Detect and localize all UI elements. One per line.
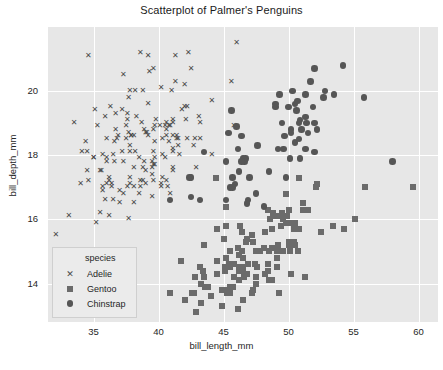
data-point-adelie: ✕ xyxy=(183,103,191,111)
data-point-adelie: ✕ xyxy=(119,190,127,198)
data-point-gentoo xyxy=(167,290,173,296)
data-point-gentoo xyxy=(275,242,281,248)
y-tick-label: 20 xyxy=(8,85,38,96)
data-point-gentoo xyxy=(291,226,297,232)
data-point-adelie: ✕ xyxy=(110,138,118,146)
data-point-gentoo xyxy=(296,226,302,232)
data-point-adelie: ✕ xyxy=(77,180,85,188)
data-point-chinstrap xyxy=(283,174,290,181)
legend-marker-x-icon: ✕ xyxy=(61,269,79,279)
data-point-chinstrap xyxy=(288,130,295,137)
data-point-gentoo xyxy=(227,264,233,270)
data-point-adelie: ✕ xyxy=(164,183,172,191)
data-point-gentoo xyxy=(223,204,229,210)
data-point-gentoo xyxy=(236,277,242,283)
data-point-gentoo xyxy=(318,229,324,235)
x-tick-label: 35 xyxy=(74,326,114,337)
data-point-gentoo xyxy=(213,175,219,181)
data-point-gentoo xyxy=(284,213,290,219)
data-point-adelie: ✕ xyxy=(105,212,113,220)
data-point-gentoo xyxy=(244,271,250,277)
data-point-gentoo xyxy=(352,216,358,222)
data-point-chinstrap xyxy=(236,168,243,175)
data-point-chinstrap xyxy=(389,158,396,165)
data-point-adelie: ✕ xyxy=(122,135,130,143)
data-point-adelie: ✕ xyxy=(118,148,126,156)
data-point-gentoo xyxy=(410,184,416,190)
data-point-gentoo xyxy=(240,297,246,303)
legend-item-adelie[interactable]: ✕Adelie xyxy=(61,266,126,281)
legend-item-chinstrap[interactable]: Chinstrap xyxy=(61,296,126,311)
data-point-chinstrap xyxy=(314,126,321,133)
data-point-chinstrap xyxy=(293,107,300,114)
data-point-gentoo xyxy=(302,274,308,280)
data-point-adelie: ✕ xyxy=(101,196,109,204)
data-point-adelie: ✕ xyxy=(233,39,241,47)
x-tick-label: 40 xyxy=(139,326,179,337)
data-point-chinstrap xyxy=(296,136,303,143)
y-tick-label: 14 xyxy=(8,278,38,289)
data-point-adelie: ✕ xyxy=(144,52,152,60)
x-tick-label: 55 xyxy=(334,326,374,337)
data-point-gentoo xyxy=(192,274,198,280)
data-point-gentoo xyxy=(253,274,259,280)
data-point-chinstrap xyxy=(305,130,312,137)
data-point-chinstrap xyxy=(188,174,195,181)
data-point-gentoo xyxy=(270,210,276,216)
legend-marker-circle-icon xyxy=(61,299,79,309)
data-point-chinstrap xyxy=(276,91,283,98)
data-point-gentoo xyxy=(227,248,233,254)
data-point-gentoo xyxy=(201,274,207,280)
data-point-gentoo xyxy=(236,268,242,274)
data-point-gentoo xyxy=(274,248,280,254)
data-point-chinstrap xyxy=(322,88,329,95)
data-point-gentoo xyxy=(253,281,259,287)
data-point-adelie: ✕ xyxy=(125,94,133,102)
data-point-chinstrap xyxy=(281,133,288,140)
data-point-gentoo xyxy=(214,271,220,277)
data-point-gentoo xyxy=(239,229,245,235)
data-point-gentoo xyxy=(269,226,275,232)
data-point-adelie: ✕ xyxy=(83,167,91,175)
data-point-adelie: ✕ xyxy=(151,154,159,162)
data-point-chinstrap xyxy=(246,174,253,181)
legend-item-label: Gentoo xyxy=(87,284,117,294)
data-point-adelie: ✕ xyxy=(139,87,147,95)
x-tick-label: 60 xyxy=(399,326,439,337)
data-point-gentoo xyxy=(261,245,267,251)
legend-item-gentoo[interactable]: Gentoo xyxy=(61,281,126,296)
data-point-gentoo xyxy=(249,290,255,296)
data-point-adelie: ✕ xyxy=(84,177,92,185)
data-point-gentoo xyxy=(214,258,220,264)
data-point-adelie: ✕ xyxy=(130,199,138,207)
legend-item-label: Chinstrap xyxy=(87,299,126,309)
data-point-adelie: ✕ xyxy=(182,116,190,124)
data-point-adelie: ✕ xyxy=(125,215,133,223)
data-point-adelie: ✕ xyxy=(169,167,177,175)
data-point-gentoo xyxy=(240,255,246,261)
data-point-adelie: ✕ xyxy=(144,100,152,108)
data-point-chinstrap xyxy=(340,62,347,69)
data-point-gentoo xyxy=(219,303,225,309)
data-point-adelie: ✕ xyxy=(118,106,126,114)
data-point-gentoo xyxy=(252,261,258,267)
data-point-adelie: ✕ xyxy=(227,78,235,86)
data-point-chinstrap xyxy=(253,190,260,197)
data-point-gentoo xyxy=(283,191,289,197)
legend: species ✕AdelieGentooChinstrap xyxy=(52,247,137,318)
data-point-adelie: ✕ xyxy=(130,164,138,172)
data-point-chinstrap xyxy=(254,142,261,149)
data-point-chinstrap xyxy=(279,120,286,127)
data-point-gentoo xyxy=(362,184,368,190)
data-point-chinstrap xyxy=(272,101,279,108)
data-point-gentoo xyxy=(219,287,225,293)
data-point-adelie: ✕ xyxy=(187,65,195,73)
data-point-adelie: ✕ xyxy=(91,106,99,114)
data-point-gentoo xyxy=(198,281,204,287)
data-point-chinstrap xyxy=(229,184,236,191)
data-point-adelie: ✕ xyxy=(116,199,124,207)
legend-marker-square-icon xyxy=(61,284,79,294)
data-point-adelie: ✕ xyxy=(157,84,165,92)
data-point-adelie: ✕ xyxy=(158,135,166,143)
data-point-chinstrap xyxy=(287,155,294,162)
